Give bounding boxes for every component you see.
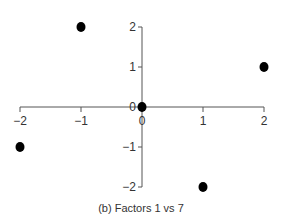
data-point (199, 182, 208, 192)
scatter-chart: −2−1012−2−1012 (0, 0, 282, 223)
y-tick-label: −2 (122, 180, 136, 194)
y-tick-label: 2 (129, 20, 136, 34)
y-tick-label: −1 (122, 140, 136, 154)
chart-caption: (b) Factors 1 vs 7 (0, 202, 282, 214)
y-tick-label: 1 (129, 60, 136, 74)
x-tick-label: 1 (200, 114, 207, 128)
data-point (260, 62, 269, 72)
x-tick-label: −1 (74, 114, 88, 128)
x-tick-label: 2 (261, 114, 268, 128)
data-point (16, 142, 25, 152)
y-tick-label: 0 (129, 100, 136, 114)
data-point (138, 102, 147, 112)
x-tick-label: 0 (139, 114, 146, 128)
data-point (77, 22, 86, 32)
x-tick-label: −2 (13, 114, 27, 128)
